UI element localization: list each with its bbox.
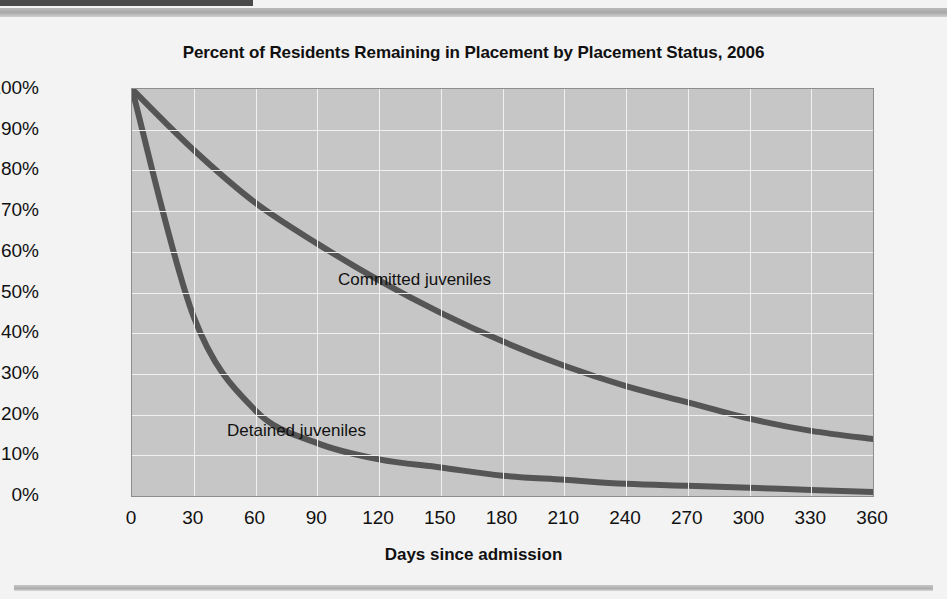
x-tick-label: 150 [424,507,456,529]
y-tick-label: 50% [0,281,39,303]
y-tick-label: 30% [0,362,39,384]
y-tick-label: 100% [0,77,39,99]
x-tick-label: 120 [362,507,394,529]
x-tick-label: 240 [609,507,641,529]
x-axis-title: Days since admission [14,545,933,565]
y-tick-label: 40% [0,321,39,343]
x-tick-label: 60 [244,507,265,529]
gridline-vertical [688,89,689,496]
y-tick-label: 70% [0,199,39,221]
gridline-vertical [750,89,751,496]
series-label-detained: Detained juveniles [227,421,366,441]
top-accent-bar [0,0,253,6]
chart-figure: Percent of Residents Remaining in Placem… [0,0,947,599]
gridline-vertical [441,89,442,496]
x-tick-label: 210 [547,507,579,529]
x-tick-label: 180 [486,507,518,529]
x-tick-label: 360 [856,507,888,529]
x-tick-label: 300 [733,507,765,529]
top-divider-rule [0,8,947,17]
gridline-vertical [194,89,195,496]
y-tick-label: 20% [0,403,39,425]
bottom-divider-rule [14,585,933,591]
gridline-vertical [811,89,812,496]
gridline-vertical [626,89,627,496]
x-tick-label: 330 [794,507,826,529]
chart-panel: Percent of Residents Remaining in Placem… [14,20,933,580]
chart-title: Percent of Residents Remaining in Placem… [14,43,933,63]
y-tick-label: 80% [0,158,39,180]
x-tick-label: 270 [671,507,703,529]
gridline-vertical [564,89,565,496]
x-tick-label: 30 [182,507,203,529]
gridline-vertical [503,89,504,496]
series-label-committed: Committed juveniles [338,270,491,290]
y-tick-label: 60% [0,240,39,262]
y-tick-label: 90% [0,118,39,140]
x-tick-label: 0 [126,507,137,529]
gridline-vertical [379,89,380,496]
y-tick-label: 0% [0,484,39,506]
x-tick-label: 90 [306,507,327,529]
y-tick-label: 10% [0,443,39,465]
